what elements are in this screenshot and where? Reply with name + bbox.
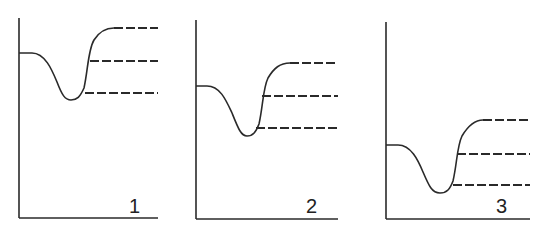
panel-2-curve (196, 63, 290, 136)
panel-3-label: 3 (496, 196, 507, 216)
figure: 1 2 3 (0, 0, 551, 246)
panel-1-label: 1 (129, 196, 140, 216)
panel-1 (19, 18, 158, 218)
panel-1-curve (19, 28, 114, 100)
panel-3 (386, 22, 530, 219)
panel-2-label: 2 (306, 196, 317, 216)
panels-drawing (0, 0, 551, 246)
panel-2 (196, 20, 338, 219)
panel-3-curve (386, 120, 483, 193)
